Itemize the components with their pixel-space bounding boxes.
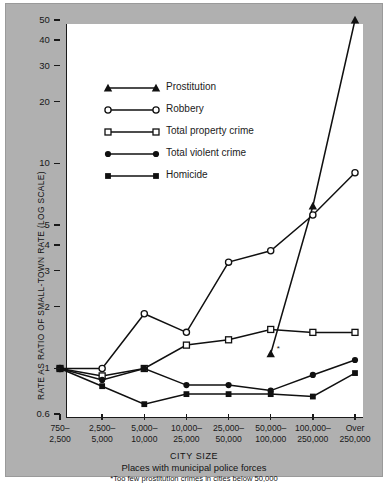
x-axis-tick [144, 414, 145, 420]
prostitution-footnote-marker: * [277, 344, 280, 353]
y-axis-tick-label: 20 [12, 96, 50, 107]
legend-label: Homicide [166, 169, 208, 180]
x-axis-tick [101, 414, 102, 420]
y-axis-tick-label: 40 [12, 34, 50, 45]
chart-footnote: *Too few prostitution crimes in cities b… [0, 474, 388, 483]
y-axis-tick-label: 5 [12, 219, 50, 230]
x-axis-subtitle: Places with municipal police forces [0, 462, 388, 473]
y-axis-tick [54, 244, 60, 245]
y-axis-tick [54, 65, 60, 66]
y-axis-tick [54, 163, 60, 164]
x-axis-tick-label-line: Over [325, 423, 385, 434]
y-axis-tick-label: 0.6 [12, 408, 50, 419]
x-axis-tick-label-line: 250,000 [325, 434, 385, 445]
y-axis-tick-label: 3 [12, 265, 50, 276]
y-axis-tick-label: 10 [12, 157, 50, 168]
y-axis-tick [54, 224, 60, 225]
x-axis-tick [354, 414, 355, 420]
chart-plate: RATE AS RATIO OF SMALL-TOWN RATE (LOG SC… [6, 4, 382, 476]
x-axis-tick [228, 414, 229, 420]
legend-label: Prostitution [166, 81, 216, 92]
y-axis-tick-label: 30 [12, 60, 50, 71]
x-axis-tick [312, 414, 313, 420]
x-axis-title: CITY SIZE [0, 451, 388, 461]
legend-label: Robbery [166, 103, 204, 114]
y-axis-tick-label: 4 [12, 239, 50, 250]
y-axis-tick [54, 270, 60, 271]
y-axis-tick [54, 306, 60, 307]
x-axis-tick [270, 414, 271, 420]
y-axis-tick [54, 368, 60, 369]
y-axis-tick-label: 50 [12, 14, 50, 25]
legend-label: Total violent crime [166, 147, 246, 158]
y-axis-tick [54, 19, 60, 20]
y-axis-tick-label: 2 [12, 301, 50, 312]
y-axis-tick [54, 39, 60, 40]
x-axis-tick-label: Over250,000 [325, 423, 385, 444]
x-axis-tick [59, 414, 60, 420]
legend-label: Total property crime [166, 125, 254, 136]
figure: RATE AS RATIO OF SMALL-TOWN RATE (LOG SC… [0, 0, 388, 498]
y-axis-tick-label: 1 [12, 362, 50, 373]
x-axis-tick [186, 414, 187, 420]
y-axis-tick [54, 101, 60, 102]
